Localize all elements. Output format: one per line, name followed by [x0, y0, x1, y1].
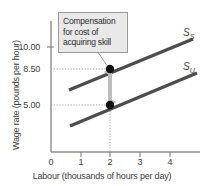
curve-label-unskilled-text: S	[183, 61, 190, 72]
annotation-line-3: acquiring skill	[63, 37, 123, 48]
annotation-line-1: Compensation	[63, 16, 123, 27]
x-tick-label-4: 4	[162, 157, 178, 167]
x-axis-title: Labour (thousands of hours per day)	[0, 171, 204, 181]
compensation-annotation: Compensation for cost of acquiring skill	[58, 12, 128, 53]
curve-label-skilled-subscript: S	[190, 33, 195, 40]
curve-label-skilled: SS	[183, 27, 194, 40]
data-point-unskilled	[106, 101, 114, 109]
wage-rate-labour-supply-chart: 10.00 8.50 5.00 0 1 2 3 4 Wage rate (pou…	[0, 0, 204, 186]
y-axis-title: Wage rate (pounds per hour)	[11, 40, 21, 150]
data-point-skilled	[106, 65, 114, 73]
x-tick-label-2: 2	[102, 157, 118, 167]
curve-label-unskilled: SU	[183, 61, 195, 74]
annotation-line-2: for cost of	[63, 27, 123, 38]
x-tick-label-3: 3	[132, 157, 148, 167]
curve-label-unskilled-subscript: U	[190, 67, 195, 74]
x-tick-label-1: 1	[73, 157, 89, 167]
x-tick-label-0: 0	[43, 157, 59, 167]
curve-label-skilled-text: S	[183, 27, 190, 38]
